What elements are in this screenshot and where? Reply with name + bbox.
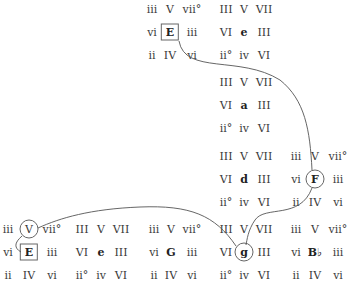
modulation-path bbox=[38, 207, 236, 246]
modulation-path bbox=[179, 41, 312, 170]
modulation-path bbox=[246, 188, 312, 245]
modulation-path bbox=[16, 236, 22, 252]
